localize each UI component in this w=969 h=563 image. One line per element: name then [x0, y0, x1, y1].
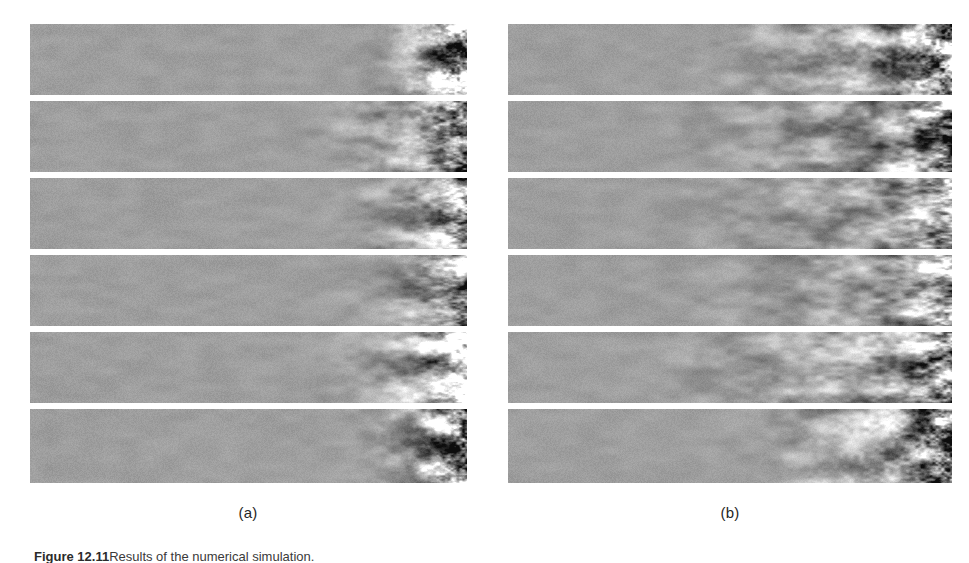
strip-a-3 [30, 178, 467, 249]
strip-a-1 [30, 24, 467, 95]
strip-canvas-b-4 [508, 255, 952, 326]
strip-canvas-b-3 [508, 178, 952, 249]
figure-caption: Figure 12.11Results of the numerical sim… [34, 549, 934, 563]
strip-b-5 [508, 332, 952, 403]
strip-canvas-a-6 [30, 409, 467, 483]
strip-b-4 [508, 255, 952, 326]
figure-root: (a) (b) Figure 12.11Results of the numer… [0, 0, 969, 563]
strip-canvas-a-3 [30, 178, 467, 249]
strip-canvas-b-2 [508, 101, 952, 172]
strip-a-5 [30, 332, 467, 403]
strip-canvas-b-1 [508, 24, 952, 95]
strip-b-6 [508, 409, 952, 483]
strip-a-2 [30, 101, 467, 172]
strip-canvas-a-5 [30, 332, 467, 403]
strip-b-2 [508, 101, 952, 172]
strip-b-3 [508, 178, 952, 249]
strip-canvas-b-6 [508, 409, 952, 483]
strip-a-4 [30, 255, 467, 326]
strip-stack-b [508, 24, 952, 483]
strip-stack-a [30, 24, 467, 483]
strip-canvas-a-2 [30, 101, 467, 172]
figure-caption-text: Results of the numerical simulation. [109, 549, 314, 563]
strip-canvas-a-1 [30, 24, 467, 95]
strip-a-6 [30, 409, 467, 483]
strip-canvas-b-5 [508, 332, 952, 403]
strip-canvas-a-4 [30, 255, 467, 326]
panel-a-sub-caption: (a) [208, 504, 288, 521]
panel-b [508, 24, 952, 483]
strip-b-1 [508, 24, 952, 95]
figure-caption-label: Figure 12.11 [34, 549, 109, 563]
panel-b-sub-caption: (b) [690, 504, 770, 521]
panel-a [30, 24, 467, 483]
